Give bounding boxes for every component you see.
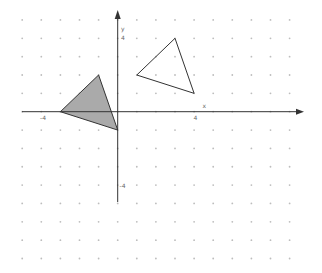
grid-dot bbox=[21, 203, 23, 205]
grid-dot bbox=[79, 56, 81, 58]
grid-dot bbox=[98, 19, 100, 21]
grid-dot bbox=[270, 74, 272, 76]
grid-dot bbox=[231, 129, 233, 131]
grid-dot bbox=[289, 92, 291, 94]
grid-dot bbox=[155, 37, 157, 39]
grid-dot bbox=[193, 239, 195, 241]
grid-dot bbox=[136, 37, 138, 39]
grid-dots bbox=[21, 19, 290, 259]
grid-dot bbox=[136, 148, 138, 150]
grid-dot bbox=[193, 56, 195, 58]
grid-dot bbox=[231, 258, 233, 260]
grid-dot bbox=[60, 37, 62, 39]
grid-dot bbox=[60, 56, 62, 58]
grid-dot bbox=[231, 184, 233, 186]
image-triangle bbox=[60, 75, 117, 130]
grid-dot bbox=[212, 148, 214, 150]
grid-dot bbox=[270, 19, 272, 21]
grid-dot bbox=[60, 184, 62, 186]
grid-dot bbox=[155, 129, 157, 131]
grid-dot bbox=[136, 239, 138, 241]
grid-dot bbox=[117, 239, 119, 241]
grid-dot bbox=[98, 56, 100, 58]
y-axis-label: y bbox=[121, 25, 125, 33]
grid-dot bbox=[231, 19, 233, 21]
grid-dot bbox=[40, 258, 42, 260]
grid-dot bbox=[270, 166, 272, 168]
grid-dot bbox=[212, 203, 214, 205]
grid-dot bbox=[155, 148, 157, 150]
grid-dot bbox=[174, 166, 176, 168]
grid-dot bbox=[270, 56, 272, 58]
grid-dot bbox=[21, 239, 23, 241]
grid-dot bbox=[98, 258, 100, 260]
grid-dot bbox=[193, 129, 195, 131]
grid-dot bbox=[251, 56, 253, 58]
axes bbox=[22, 10, 304, 202]
grid-dot bbox=[212, 74, 214, 76]
grid-dot bbox=[174, 221, 176, 223]
grid-dot bbox=[136, 221, 138, 223]
grid-dot bbox=[40, 74, 42, 76]
grid-dot bbox=[136, 56, 138, 58]
grid-dot bbox=[40, 184, 42, 186]
grid-dot bbox=[289, 221, 291, 223]
grid-dot bbox=[60, 148, 62, 150]
grid-dot bbox=[79, 221, 81, 223]
grid-dot bbox=[117, 258, 119, 260]
grid-dot bbox=[212, 184, 214, 186]
grid-dot bbox=[193, 203, 195, 205]
grid-dot bbox=[40, 221, 42, 223]
grid-dot bbox=[193, 221, 195, 223]
grid-dot bbox=[231, 37, 233, 39]
grid-dot bbox=[136, 129, 138, 131]
grid-dot bbox=[40, 239, 42, 241]
grid-dot bbox=[136, 19, 138, 21]
grid-dot bbox=[117, 221, 119, 223]
grid-dot bbox=[174, 203, 176, 205]
grid-dot bbox=[40, 148, 42, 150]
grid-dot bbox=[289, 37, 291, 39]
grid-dot bbox=[98, 166, 100, 168]
grid-dot bbox=[289, 166, 291, 168]
grid-dot bbox=[136, 203, 138, 205]
grid-dot bbox=[212, 221, 214, 223]
grid-dot bbox=[40, 129, 42, 131]
grid-dot bbox=[231, 221, 233, 223]
y-axis-arrow-icon bbox=[115, 10, 121, 19]
grid-dot bbox=[60, 129, 62, 131]
shapes bbox=[60, 38, 194, 130]
grid-dot bbox=[212, 258, 214, 260]
tick-label-x-neg4: -4 bbox=[40, 114, 46, 121]
grid-dot bbox=[79, 166, 81, 168]
grid-dot bbox=[174, 258, 176, 260]
grid-dot bbox=[60, 166, 62, 168]
grid-dot bbox=[251, 129, 253, 131]
grid-dot bbox=[155, 239, 157, 241]
grid-dot bbox=[40, 92, 42, 94]
tick-label-x-4: 4 bbox=[194, 114, 198, 121]
grid-dot bbox=[79, 184, 81, 186]
grid-dot bbox=[289, 203, 291, 205]
grid-dot bbox=[231, 92, 233, 94]
grid-dot bbox=[270, 239, 272, 241]
grid-dot bbox=[193, 148, 195, 150]
grid-dot bbox=[155, 19, 157, 21]
grid-dot bbox=[21, 184, 23, 186]
grid-dot bbox=[231, 203, 233, 205]
grid-dot bbox=[193, 19, 195, 21]
grid-dot bbox=[231, 239, 233, 241]
grid-dot bbox=[21, 19, 23, 21]
grid-dot bbox=[155, 166, 157, 168]
grid-dot bbox=[79, 37, 81, 39]
grid-dot bbox=[79, 203, 81, 205]
grid-dot bbox=[98, 221, 100, 223]
grid-dot bbox=[212, 129, 214, 131]
grid-dot bbox=[98, 148, 100, 150]
grid-dot bbox=[21, 221, 23, 223]
grid-dot bbox=[155, 184, 157, 186]
coordinate-plane: x y -4 4 4 -4 bbox=[0, 0, 322, 273]
grid-dot bbox=[174, 56, 176, 58]
grid-dot bbox=[212, 239, 214, 241]
grid-dot bbox=[289, 184, 291, 186]
